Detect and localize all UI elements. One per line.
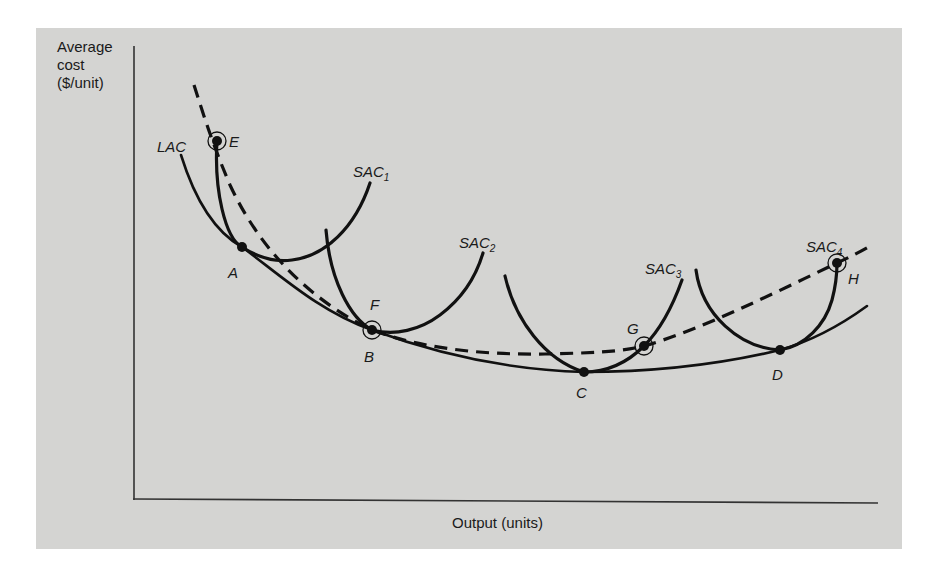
label-sac4: SAC4 [806, 238, 843, 258]
label-a: A [227, 264, 238, 281]
y-axis-label-line2: cost [57, 56, 85, 73]
point-g [635, 337, 653, 355]
label-f: F [370, 296, 380, 313]
y-axis-label-line1: Average [57, 38, 113, 55]
label-b: B [364, 348, 374, 365]
x-axis-label: Output (units) [452, 514, 543, 531]
label-g: G [627, 320, 639, 337]
label-h: H [848, 270, 859, 287]
lac-curve [181, 155, 867, 372]
point-d [775, 345, 785, 355]
y-axis-label-line3: ($/unit) [57, 74, 104, 91]
label-sac1: SAC1 [353, 163, 389, 183]
point-a [237, 242, 247, 252]
label-lac: LAC [157, 138, 186, 155]
label-sac3: SAC3 [645, 260, 682, 280]
label-d: D [772, 366, 783, 383]
point-c [579, 367, 589, 377]
label-sac2: SAC2 [459, 234, 496, 254]
dashed-path-efgh [194, 85, 872, 354]
label-c: C [576, 384, 587, 401]
point-b [367, 325, 377, 335]
cost-curves-diagram: Average cost ($/unit) Output (units) LAC… [0, 0, 937, 581]
x-axis [133, 499, 878, 503]
sac3-curve [505, 276, 682, 372]
label-e: E [229, 133, 240, 150]
